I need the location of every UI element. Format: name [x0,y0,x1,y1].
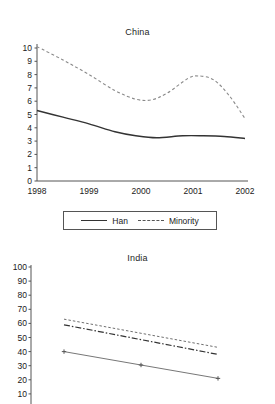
india-y-tick-label: 50 [18,333,28,343]
india-y-tick-label: 80 [18,290,28,300]
legend-entry-han: Han [81,216,128,226]
china-y-tick-label: 0 [27,176,32,186]
india-y-tick-label: 40 [18,347,28,357]
china-plot-area: 01234567891019981999200020012002 [0,0,275,236]
china-y-tick-label: 5 [27,110,32,120]
china-x-tick-label: 1998 [28,186,47,196]
china-y-tick-label: 10 [23,43,33,53]
china-x-tick-label: 2000 [132,186,151,196]
india-chart-panel: India 102030405060708090100 [0,236,275,404]
india-y-tick-label: 20 [18,375,28,385]
china-chart-panel: China 01234567891019981999200020012002 H… [0,0,275,236]
china-y-tick-label: 4 [27,123,32,133]
india-y-tick-label: 100 [13,262,27,272]
india-y-tick-label: 60 [18,318,28,328]
china-y-tick-label: 1 [27,163,32,173]
india-plot-area: 102030405060708090100 [0,236,275,404]
india-series-dashdot-middle [64,325,218,355]
china-legend: Han Minority [63,211,217,230]
china-y-tick-label: 6 [27,96,32,106]
india-series-dotted-upper [64,319,218,347]
china-y-tick-label: 2 [27,149,32,159]
legend-entry-minority: Minority [138,216,199,226]
india-y-tick-label: 90 [18,276,28,286]
legend-swatch-han [81,220,107,221]
china-y-tick-label: 8 [27,70,32,80]
china-x-tick-label: 1999 [80,186,99,196]
india-y-tick-label: 30 [18,361,28,371]
legend-label-minority: Minority [169,216,199,226]
legend-swatch-minority [138,220,164,221]
china-x-tick-label: 2002 [236,186,255,196]
china-x-tick-label: 2001 [184,186,203,196]
china-y-tick-label: 9 [27,56,32,66]
india-y-tick-label: 70 [18,304,28,314]
china-y-tick-label: 3 [27,136,32,146]
legend-label-han: Han [112,216,128,226]
china-y-tick-label: 7 [27,83,32,93]
india-y-tick-label: 10 [18,389,28,399]
china-series-minority [37,47,245,119]
china-series-han [37,111,245,139]
